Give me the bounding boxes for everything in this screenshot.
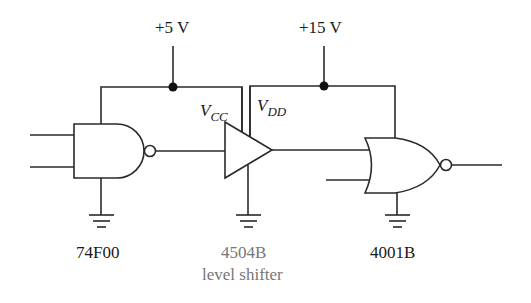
nand-inversion-bubble (145, 146, 156, 157)
vdd-junction-dot (320, 82, 329, 91)
nor-ground-icon (385, 215, 410, 227)
nor-part-label: 4001B (370, 243, 415, 262)
nand-gate (30, 124, 156, 227)
vcc-junction-dot (169, 83, 178, 92)
nand-ground-icon (89, 215, 114, 227)
vdd-pin-label: VDD (257, 96, 287, 119)
buffer-sublabel: level shifter (202, 265, 283, 284)
buffer-ground-icon (236, 215, 261, 227)
circuit-diagram: +5 V +15 V VCC VDD 74F00 (0, 0, 531, 303)
supply-15v-label: +15 V (299, 18, 343, 37)
nor-body (365, 138, 440, 193)
nand-part-label: 74F00 (76, 243, 119, 262)
nor-gate (326, 138, 502, 227)
nand-body (74, 124, 144, 178)
buffer-part-label: 4504B (221, 243, 266, 262)
supply-5v-label: +5 V (155, 18, 190, 37)
nor-inversion-bubble (441, 160, 452, 171)
vcc-pin-label: VCC (200, 101, 228, 124)
